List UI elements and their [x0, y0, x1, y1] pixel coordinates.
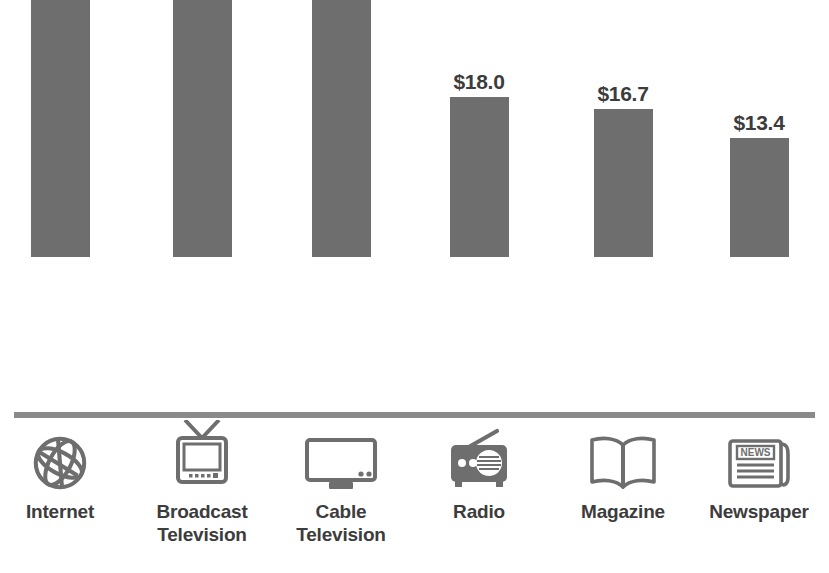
- category-newspaper: NEWS Newspaper: [690, 418, 828, 573]
- bar-internet[interactable]: [31, 0, 90, 257]
- bar-value-label: $13.4: [733, 112, 784, 133]
- bar-column-radio[interactable]: $18.0: [410, 0, 548, 257]
- category-magazine: Magazine: [554, 418, 692, 573]
- radio-icon: [445, 418, 513, 494]
- bar-column-magazine[interactable]: $16.7: [554, 0, 692, 257]
- category-broadcast-television: Broadcast Television: [133, 418, 271, 573]
- bar-newspaper[interactable]: [730, 138, 789, 257]
- newspaper-masthead-text: NEWS: [741, 447, 771, 458]
- category-internet: Internet: [0, 418, 129, 573]
- bar-broadcast-television[interactable]: [173, 0, 232, 257]
- category-label: Cable Television: [296, 500, 386, 546]
- bar-value-label: $16.7: [597, 83, 648, 104]
- category-label: Radio: [453, 500, 505, 523]
- category-axis: Internet Broadc: [0, 418, 829, 573]
- monitor-icon: [303, 418, 379, 494]
- category-label: Internet: [26, 500, 94, 523]
- bar-magazine[interactable]: [594, 109, 653, 257]
- newspaper-icon: NEWS: [725, 418, 793, 494]
- bar-chart: $42.8 $40.1 $34.4 $18.0 $16.7 $13.4: [0, 0, 829, 573]
- bar-column-internet[interactable]: $42.8: [0, 0, 129, 257]
- magazine-icon: [586, 418, 660, 494]
- category-radio: Radio: [410, 418, 548, 573]
- bar-column-cable-television[interactable]: $34.4: [272, 0, 410, 257]
- globe-icon: [29, 418, 91, 494]
- category-cable-television: Cable Television: [272, 418, 410, 573]
- bar-radio[interactable]: [450, 97, 509, 257]
- crt-tv-icon: [169, 418, 235, 494]
- bar-cable-television[interactable]: [312, 0, 371, 257]
- bar-value-label: $18.0: [453, 71, 504, 92]
- plot-area: $42.8 $40.1 $34.4 $18.0 $16.7 $13.4: [0, 0, 829, 418]
- bar-column-broadcast-television[interactable]: $40.1: [133, 0, 271, 257]
- category-label: Newspaper: [709, 500, 809, 523]
- bar-column-newspaper[interactable]: $13.4: [690, 0, 828, 257]
- category-label: Magazine: [581, 500, 665, 523]
- category-label: Broadcast Television: [156, 500, 247, 546]
